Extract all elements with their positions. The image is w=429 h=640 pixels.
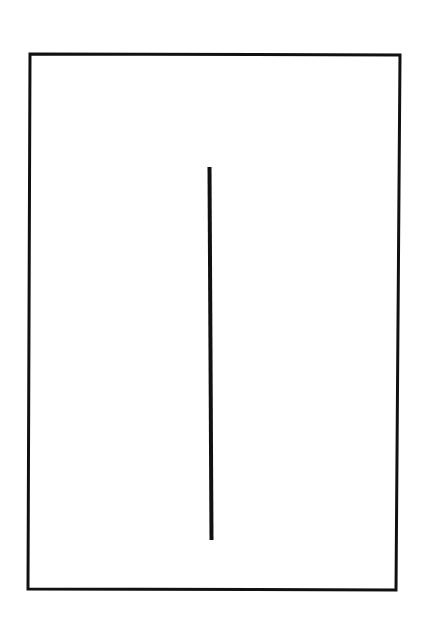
background	[0, 0, 429, 640]
diagram-canvas	[0, 0, 429, 640]
vertical-line	[210, 167, 212, 540]
